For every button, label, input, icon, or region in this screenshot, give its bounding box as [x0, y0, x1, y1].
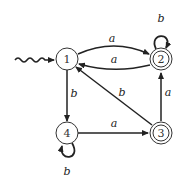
start-arrow	[15, 58, 54, 62]
edge-label-1-4: b	[70, 87, 77, 100]
state-label-1: 1	[64, 53, 71, 66]
state-2: 2	[150, 48, 172, 70]
edge-label-4-3: a	[111, 117, 118, 130]
state-4: 4	[56, 122, 78, 144]
edge-label-2-1: a	[111, 53, 118, 66]
state-label-2: 2	[158, 53, 165, 66]
state-label-4: 4	[64, 127, 71, 140]
edge-label-2-2: b	[157, 12, 164, 25]
edge-label-3-2: a	[165, 86, 172, 99]
edge-2-2	[154, 36, 167, 49]
edge-4-4	[62, 143, 75, 157]
state-label-3: 3	[158, 127, 165, 140]
state-3: 3	[150, 122, 172, 144]
state-1: 1	[56, 48, 78, 70]
edge-label-1-2: a	[109, 32, 116, 45]
diagram-canvas: a a b b b a a b 1 2 3 4	[0, 0, 181, 184]
automaton-diagram: a a b b b a a b 1 2 3 4	[0, 0, 181, 184]
edge-label-3-1: b	[118, 86, 125, 99]
edge-label-4-4: b	[63, 165, 70, 178]
